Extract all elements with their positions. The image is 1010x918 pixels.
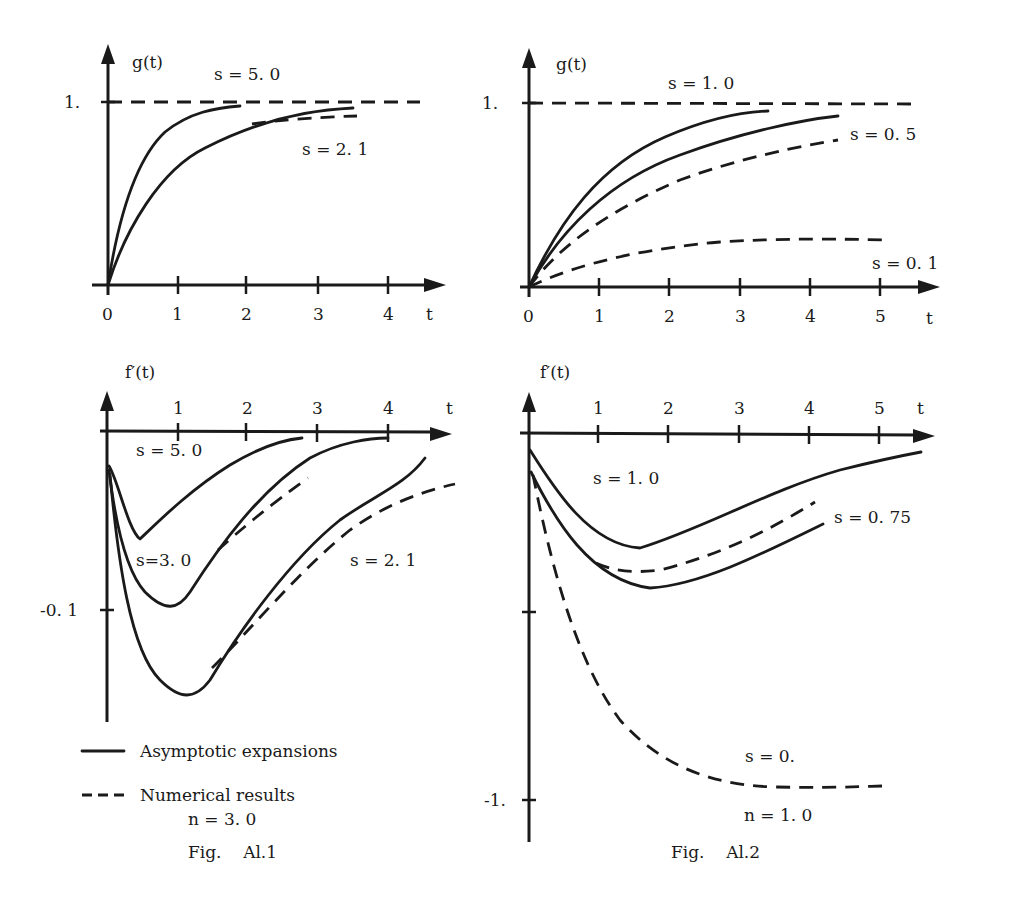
curve-s0.1-numerical — [529, 239, 888, 287]
x-axis — [520, 433, 920, 435]
x-tick-label: 3 — [734, 398, 745, 418]
x-tick-label: 3 — [313, 304, 324, 324]
x-tick-label: 4 — [805, 306, 816, 326]
curve-s0.5-numerical — [529, 140, 838, 287]
x-tick-label: 5 — [875, 306, 886, 326]
asymptote-line — [529, 103, 920, 104]
curve-label: s = 2. 1 — [350, 550, 416, 570]
parameter-label: n = 1. 0 — [744, 805, 812, 825]
y-axis-label: g(t) — [132, 52, 163, 72]
y-axis-arrow-icon — [522, 48, 536, 68]
curve-label: s = 0. — [745, 746, 795, 766]
legend-solid-label: Asymptotic expansions — [139, 741, 338, 761]
curve-label: s = 1. 0 — [668, 73, 734, 93]
x-tick-label: 1 — [172, 304, 183, 324]
x-tick-label: 2 — [663, 398, 674, 418]
panel-bottom-right-fprime: f′(t) -1. 1 2 3 4 5 t s = 1. 0 s = 0. 75… — [484, 362, 935, 862]
x-tick-label: 4 — [383, 304, 394, 324]
panel-top-right-g: g(t) 1. 0 1 2 3 4 5 t s = 1. 0 s = 0. 5 … — [482, 48, 940, 328]
x-tick-label: 4 — [383, 398, 394, 418]
legend-dashed-label: Numerical results — [140, 785, 295, 805]
x-axis-label: t — [446, 398, 453, 418]
curve-s5-asymptotic — [108, 106, 240, 285]
x-axis-arrow-icon — [913, 429, 935, 443]
curve-label: s = 2. 1 — [302, 139, 368, 159]
curve-label: s = 0. 75 — [834, 507, 911, 527]
y-axis-arrow-icon — [522, 392, 536, 412]
panel-bottom-left-fprime: f′(t) -0. 1 1 2 3 4 t s = 5. 0 s=3. 0 s … — [40, 362, 455, 862]
x-tick-label: 1 — [593, 398, 604, 418]
x-axis-arrow-icon — [424, 278, 446, 292]
curve-s2.1-asymptotic — [108, 108, 353, 285]
x-axis-label: t — [426, 304, 433, 324]
curve-s0.75-asymptotic — [531, 472, 823, 588]
x-tick-label: 0 — [102, 304, 113, 324]
panel-top-left-g: g(t) 1. 0 1 2 3 4 t s = 5. 0 s = 2. 1 — [64, 44, 446, 324]
curve-label: s = 5. 0 — [136, 440, 202, 460]
curve-s0.5-asymptotic — [529, 116, 838, 287]
y-tick-label: 1. — [482, 93, 498, 113]
curve-label: s = 0. 5 — [850, 124, 916, 144]
x-tick-label: 2 — [241, 304, 252, 324]
curve-s3-numerical — [218, 478, 308, 550]
y-axis-label: f′(t) — [540, 362, 570, 382]
x-axis-label: t — [926, 308, 933, 328]
x-tick-label: 1 — [594, 306, 605, 326]
curve-label: s=3. 0 — [136, 550, 191, 570]
x-axis — [100, 431, 435, 432]
legend: Asymptotic expansions Numerical results — [82, 741, 338, 805]
figure-canvas: g(t) 1. 0 1 2 3 4 t s = 5. 0 s = 2. 1 g(… — [0, 0, 1010, 918]
x-axis-arrow-icon — [430, 427, 452, 441]
x-tick-label: 0 — [523, 306, 534, 326]
curve-s3-asymptotic — [109, 438, 388, 606]
x-tick-label: 1 — [173, 398, 184, 418]
x-tick-label: 2 — [242, 398, 253, 418]
x-tick-label: 4 — [804, 398, 815, 418]
y-axis-arrow-icon — [101, 44, 115, 64]
y-tick-label: 1. — [64, 92, 80, 112]
curve-s1.0-numerical — [596, 502, 815, 572]
parameter-label: n = 3. 0 — [188, 809, 256, 829]
x-tick-label: 5 — [874, 398, 885, 418]
x-axis-arrow-icon — [918, 280, 940, 294]
x-tick-label: 3 — [735, 306, 746, 326]
x-axis-label: t — [917, 398, 924, 418]
x-tick-label: 2 — [664, 306, 675, 326]
y-axis-label: g(t) — [556, 54, 587, 74]
curve-label: s = 0. 1 — [872, 253, 938, 273]
curve-label: s = 5. 0 — [214, 64, 280, 84]
figure-caption: Fig. Al.1 — [188, 842, 277, 862]
y-axis-label: f′(t) — [125, 362, 155, 382]
y-tick-label: -1. — [484, 790, 506, 810]
y-axis-arrow-icon — [100, 391, 114, 411]
curve-label: s = 1. 0 — [593, 468, 659, 488]
y-tick-label: -0. 1 — [40, 600, 78, 620]
curve-s1.0-asymptotic — [530, 450, 921, 548]
figure-caption: Fig. Al.2 — [671, 842, 760, 862]
x-tick-label: 3 — [312, 398, 323, 418]
